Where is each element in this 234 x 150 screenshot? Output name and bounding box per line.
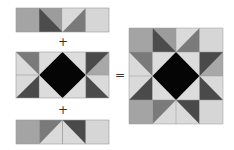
top-strip — [16, 8, 109, 32]
bottom-strip — [16, 120, 109, 144]
plus-sign-2: + — [58, 104, 68, 116]
plus-sign-1: + — [58, 36, 68, 48]
finished-block — [129, 28, 223, 124]
middle-strip — [16, 52, 109, 98]
equals-sign: = — [115, 69, 125, 81]
